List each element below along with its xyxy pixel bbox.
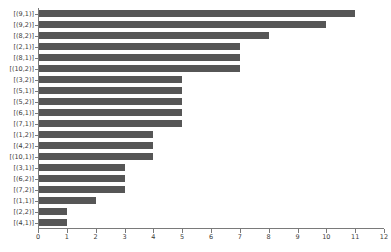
bar-row: [(8,1)] bbox=[38, 52, 384, 63]
bar-row: [(2,1)] bbox=[38, 41, 384, 52]
category-label: [(5,1)] bbox=[14, 87, 34, 94]
bar-row: [(4,2)] bbox=[38, 140, 384, 151]
bar-row: [(10,1)] bbox=[38, 151, 384, 162]
x-axis-ticks: 0123456789101112 bbox=[38, 229, 384, 247]
category-label: [(6,2)] bbox=[14, 175, 34, 182]
bar bbox=[38, 10, 355, 17]
bar bbox=[38, 186, 125, 193]
bar bbox=[38, 197, 96, 204]
x-axis-tick-label: 11 bbox=[351, 234, 359, 241]
bar bbox=[38, 142, 153, 149]
bar bbox=[38, 208, 67, 215]
bar-row: [(9,2)] bbox=[38, 19, 384, 30]
category-label: [(2,2)] bbox=[14, 208, 34, 215]
category-label: [(10,1)] bbox=[9, 153, 34, 160]
x-axis-tick-label: 8 bbox=[267, 234, 271, 241]
bar bbox=[38, 87, 182, 94]
x-axis-tick-label: 10 bbox=[322, 234, 330, 241]
category-label: [(3,1)] bbox=[14, 164, 34, 171]
plot-area: [(9,1)][(9,2)][(8,2)][(2,1)][(8,1)][(10,… bbox=[38, 8, 384, 228]
bar-row: [(7,2)] bbox=[38, 184, 384, 195]
x-axis-tick-label: 7 bbox=[238, 234, 242, 241]
bar bbox=[38, 76, 182, 83]
bar-row: [(1,1)] bbox=[38, 195, 384, 206]
x-axis-tick-label: 1 bbox=[65, 234, 69, 241]
bar bbox=[38, 131, 153, 138]
bar bbox=[38, 109, 182, 116]
bar bbox=[38, 98, 182, 105]
bar bbox=[38, 65, 240, 72]
category-label: [(7,2)] bbox=[14, 186, 34, 193]
category-label: [(8,2)] bbox=[14, 32, 34, 39]
bar bbox=[38, 32, 269, 39]
x-axis-tick-label: 4 bbox=[151, 234, 155, 241]
category-label: [(4,2)] bbox=[14, 142, 34, 149]
category-label: [(9,1)] bbox=[14, 10, 34, 17]
category-label: [(4,1)] bbox=[14, 219, 34, 226]
x-axis-tick-label: 5 bbox=[180, 234, 184, 241]
bar-row: [(8,2)] bbox=[38, 30, 384, 41]
category-label: [(5,2)] bbox=[14, 98, 34, 105]
x-axis-tick-label: 6 bbox=[209, 234, 213, 241]
bar bbox=[38, 21, 326, 28]
bar-row: [(3,2)] bbox=[38, 74, 384, 85]
bar-row: [(5,2)] bbox=[38, 96, 384, 107]
category-label: [(7,1)] bbox=[14, 120, 34, 127]
bar bbox=[38, 153, 153, 160]
bar-row: [(7,1)] bbox=[38, 118, 384, 129]
bar-row: [(4,1)] bbox=[38, 217, 384, 228]
bar-row: [(6,2)] bbox=[38, 173, 384, 184]
x-axis-tick-label: 3 bbox=[122, 234, 126, 241]
x-axis-tick-label: 0 bbox=[36, 234, 40, 241]
bar-chart: [(9,1)][(9,2)][(8,2)][(2,1)][(8,1)][(10,… bbox=[0, 0, 391, 252]
category-label: [(9,2)] bbox=[14, 21, 34, 28]
category-label: [(10,2)] bbox=[9, 65, 34, 72]
x-axis-tick-label: 12 bbox=[380, 234, 388, 241]
bar-row: [(3,1)] bbox=[38, 162, 384, 173]
bar bbox=[38, 219, 67, 226]
bar-row: [(5,1)] bbox=[38, 85, 384, 96]
category-label: [(8,1)] bbox=[14, 54, 34, 61]
y-axis-line bbox=[38, 8, 39, 228]
category-label: [(3,2)] bbox=[14, 76, 34, 83]
bar-row: [(10,2)] bbox=[38, 63, 384, 74]
bar-row: [(6,1)] bbox=[38, 107, 384, 118]
bar-row: [(2,2)] bbox=[38, 206, 384, 217]
bar-row: [(9,1)] bbox=[38, 8, 384, 19]
category-label: [(6,1)] bbox=[14, 109, 34, 116]
category-label: [(1,2)] bbox=[14, 131, 34, 138]
x-axis-tick-label: 2 bbox=[94, 234, 98, 241]
x-axis-tick-label: 9 bbox=[295, 234, 299, 241]
bar bbox=[38, 175, 125, 182]
bar bbox=[38, 54, 240, 61]
bar bbox=[38, 120, 182, 127]
bar bbox=[38, 43, 240, 50]
category-label: [(2,1)] bbox=[14, 43, 34, 50]
category-label: [(1,1)] bbox=[14, 197, 34, 204]
bar bbox=[38, 164, 125, 171]
bar-row: [(1,2)] bbox=[38, 129, 384, 140]
